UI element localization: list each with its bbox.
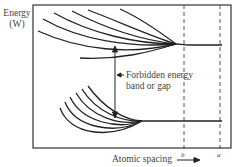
upper-converged-line [176,44,222,45]
lower-band [60,86,222,132]
band-diagram [0,0,239,167]
upper-band [38,9,222,58]
marker-label-a: a [217,150,221,161]
x-axis-label: Atomic spacing [112,154,172,165]
y-axis-label: Energy (W) [2,8,32,30]
y-axis-label-line2: (W) [2,19,32,30]
upper-curve [54,13,176,44]
gap-label-line1: Forbidden energy [126,70,193,81]
lower-curve [82,89,142,121]
upper-curve [80,44,176,58]
gap-label: Forbidden energy band or gap [126,70,193,92]
gap-label-line2: band or gap [126,81,193,92]
marker-label-b: b [181,150,185,161]
y-axis-label-line1: Energy [2,8,32,19]
